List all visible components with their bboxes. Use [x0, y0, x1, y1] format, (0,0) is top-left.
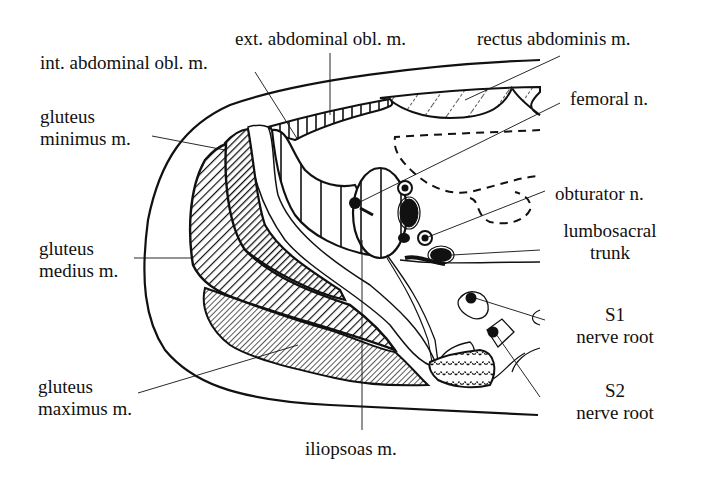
leader-gluteus-minimus [152, 136, 225, 150]
psoas-muscle [353, 168, 407, 258]
label-ext-abdominal-obl: ext. abdominal obl. m. [235, 28, 406, 50]
label-s1-nerve-root: S1 nerve root [560, 304, 670, 348]
rectus-abdominis-muscle [380, 87, 540, 118]
label-gluteus-minimus: gluteus minimus m. [40, 106, 131, 150]
label-gluteus-medius: gluteus medius m. [39, 238, 118, 282]
dashed-outline [395, 130, 540, 193]
leader-lumbosacral [452, 250, 540, 255]
femoral-nerve [349, 197, 361, 209]
sacrum-region [429, 350, 494, 387]
label-lumbosacral-trunk: lumbosacral trunk [550, 220, 670, 264]
label-rectus-abdominis: rectus abdominis m. [477, 28, 631, 50]
label-femoral-n: femoral n. [570, 88, 648, 110]
leader-s2 [496, 334, 540, 397]
label-int-abdominal-obl: int. abdominal obl. m. [40, 52, 208, 74]
obturator-nerve-vessel [400, 199, 418, 227]
label-s2-nerve-root: S2 nerve root [560, 380, 670, 424]
label-obturator-n: obturator n. [555, 183, 644, 205]
s1-nerve-root [466, 293, 477, 304]
label-gluteus-maximus: gluteus maximus m. [38, 376, 132, 420]
anatomy-diagram: ext. abdominal obl. m. int. abdominal ob… [0, 0, 702, 482]
label-iliopsoas: iliopsoas m. [305, 438, 397, 460]
